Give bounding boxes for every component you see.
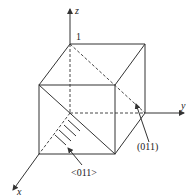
cube-diagram: z y x 1 (011) <011> [0,0,190,196]
x-axis [13,154,39,190]
plane-diagonal-011 [70,44,145,113]
unit-label: 1 [76,31,81,42]
x-axis-label: x [16,186,22,196]
cube-edges [39,44,145,154]
direction-pointer-arrow [68,148,82,165]
y-axis-label: y [180,100,186,111]
front-diagonal [39,85,115,154]
direction-label: <011> [71,167,97,178]
z-axis-label: z [74,5,79,16]
plane-label: (011) [137,141,158,153]
direction-hatch [55,120,80,145]
